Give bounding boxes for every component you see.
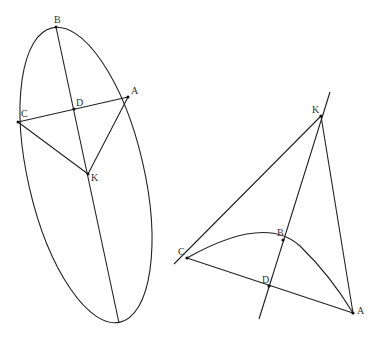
right-figure: K C B D A [174,92,365,319]
left-figure: B A C D K [0,14,176,335]
label-a: A [131,85,139,96]
point-b [55,26,58,29]
point-c [17,121,20,124]
point-a [351,311,354,314]
point-b [281,238,284,241]
label-a: A [357,305,365,316]
label-c: C [21,108,28,119]
point-k [319,114,322,117]
label-d: D [76,97,83,108]
point-a [127,96,130,99]
point-c [185,256,188,259]
segment-ak [88,97,128,174]
arc-cba [187,233,353,313]
label-k: K [312,104,320,115]
label-k: K [91,172,99,183]
label-b: B [277,227,284,238]
point-k [87,173,90,176]
label-b: B [54,14,61,25]
geometry-diagram: B A C D K K C B D A [0,0,376,339]
label-d: D [262,274,269,285]
label-c: C [178,246,185,257]
line-ka [321,116,353,313]
